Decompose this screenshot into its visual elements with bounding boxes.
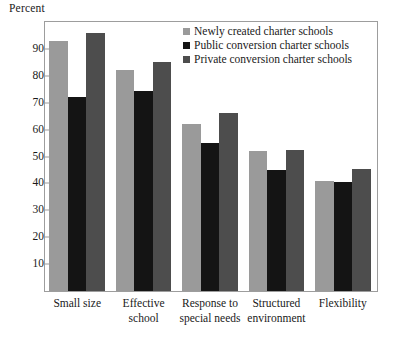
y-axis-title: Percent xyxy=(9,2,45,14)
legend-label: Newly created charter schools xyxy=(194,26,333,38)
legend: Newly created charter schoolsPublic conv… xyxy=(183,25,383,67)
bar xyxy=(116,70,135,291)
bar xyxy=(134,91,153,291)
legend-label: Private conversion charter schools xyxy=(194,54,352,66)
y-axis-tick-label: 60 xyxy=(8,124,44,136)
bar xyxy=(219,113,238,291)
y-axis-tick-labels: 102030405060708090 xyxy=(0,21,44,292)
bar xyxy=(201,143,220,291)
bar xyxy=(86,33,105,291)
legend-label: Public conversion charter schools xyxy=(194,40,349,52)
legend-item: Newly created charter schools xyxy=(183,25,383,39)
y-axis-tick-label: 10 xyxy=(8,258,44,270)
x-axis-category-label: Effectiveschool xyxy=(110,296,176,325)
y-axis-tick-label: 90 xyxy=(8,43,44,55)
x-axis-category-labels: Small sizeEffectiveschoolResponse tospec… xyxy=(44,296,378,341)
bar xyxy=(182,124,201,291)
y-axis-tick-label: 70 xyxy=(8,97,44,109)
bar xyxy=(68,97,87,291)
legend-item: Public conversion charter schools xyxy=(183,39,383,53)
legend-item: Private conversion charter schools xyxy=(183,53,383,67)
bar xyxy=(153,62,172,291)
x-axis-category-label: Response tospecial needs xyxy=(177,296,243,325)
x-axis-category-label: Structuredenvironment xyxy=(243,296,309,325)
bar xyxy=(249,151,268,291)
y-axis-tick-label: 40 xyxy=(8,178,44,190)
y-axis-tick-label: 30 xyxy=(8,205,44,217)
y-axis-tick-label: 50 xyxy=(8,151,44,163)
legend-swatch-icon xyxy=(183,42,190,49)
bar xyxy=(49,41,68,291)
x-axis-category-label: Small size xyxy=(44,296,110,311)
bar xyxy=(267,170,286,291)
x-axis-category-label: Flexibility xyxy=(310,296,376,311)
legend-swatch-icon xyxy=(183,56,190,63)
bar-chart: Percent 102030405060708090 Small sizeEff… xyxy=(0,0,397,341)
bar xyxy=(286,150,305,291)
y-axis-tick-label: 20 xyxy=(8,231,44,243)
bar xyxy=(334,182,353,291)
bar xyxy=(315,181,334,291)
legend-swatch-icon xyxy=(183,28,190,35)
y-axis-tick-label: 80 xyxy=(8,70,44,82)
bar xyxy=(352,169,371,291)
